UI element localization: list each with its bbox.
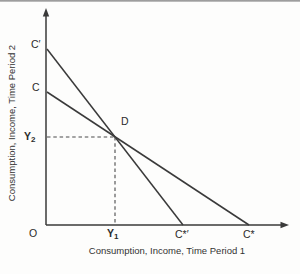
label-c-star-prime: C*′ [175, 228, 189, 240]
budget-line-shallow [47, 92, 249, 225]
label-y1-main: Y [107, 227, 114, 239]
label-c-prime: C′ [31, 38, 41, 50]
label-y2: Y2 [24, 130, 35, 146]
label-d: D [121, 115, 129, 127]
label-y2-main: Y [24, 130, 31, 142]
x-axis-title: Consumption, Income, Time Period 1 [89, 245, 245, 256]
economics-figure: C′ C Y2 D O Y1 C*′ C* Consumption, Incom… [0, 0, 300, 274]
y-axis-arrowhead-icon [43, 8, 49, 17]
diagram-canvas [0, 0, 300, 274]
label-y1: Y1 [107, 227, 118, 243]
x-axis-arrowhead-icon [281, 222, 290, 228]
label-c: C [32, 81, 40, 93]
label-origin: O [29, 227, 37, 239]
label-y2-subscript: 2 [31, 135, 35, 144]
label-c-star: C* [243, 228, 255, 240]
label-y1-subscript: 1 [114, 232, 118, 241]
y-axis-title: Consumption, Income, Time Period 2 [6, 45, 17, 201]
